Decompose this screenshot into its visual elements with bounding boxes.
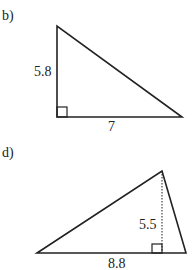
- right-angle-marker-b: [57, 107, 67, 117]
- triangle-d-outline: [37, 171, 186, 253]
- figure-b-height-label: 5.8: [34, 65, 52, 79]
- figure-d-height-label: 5.5: [139, 218, 157, 232]
- figure-d-label: d): [2, 146, 14, 160]
- figure-b-label: b): [2, 9, 14, 23]
- diagram-canvas: [0, 0, 194, 270]
- right-angle-marker-d: [152, 244, 162, 253]
- figure-b-base-label: 7: [108, 120, 115, 134]
- figure-d-base-label: 8.8: [108, 257, 126, 270]
- triangle-b-outline: [57, 26, 182, 117]
- triangle-b: [57, 26, 182, 117]
- triangle-d: [37, 171, 186, 253]
